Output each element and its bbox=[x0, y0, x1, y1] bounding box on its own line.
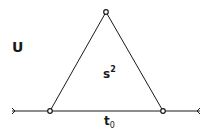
triangle-left-edge bbox=[50, 12, 106, 111]
vertex-bottom-left bbox=[48, 109, 53, 114]
edge-label: t0 bbox=[104, 115, 115, 130]
vertex-top bbox=[104, 10, 109, 15]
vertex-bottom-right bbox=[161, 109, 166, 114]
face-label-superscript: 2 bbox=[110, 65, 116, 74]
face-label: s2 bbox=[103, 67, 116, 80]
edge-label-subscript: 0 bbox=[110, 121, 115, 130]
simplex-diagram bbox=[0, 0, 211, 131]
triangle-right-edge bbox=[106, 12, 163, 111]
region-label-u: U bbox=[12, 40, 23, 54]
